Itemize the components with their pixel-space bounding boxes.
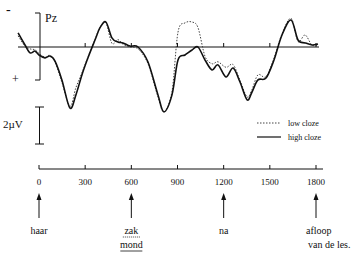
event-word: haar — [30, 225, 48, 236]
baseline-ticks — [85, 43, 316, 47]
x-tick-label: 900 — [171, 177, 185, 187]
legend-label-high-cloze: high cloze — [288, 133, 322, 142]
data-point-low-cloze — [305, 34, 306, 35]
arrowhead-icon — [221, 193, 226, 200]
event-marker: afloopvan de les. — [306, 193, 351, 250]
event-markers: haarzakmondnaafloopvan de les. — [30, 193, 350, 251]
event-word: afloop — [306, 225, 332, 236]
positive-polarity-label: + — [12, 72, 19, 86]
x-tick-label: 1200 — [215, 177, 234, 187]
event-word: mond — [120, 239, 143, 250]
event-word: na — [219, 225, 229, 236]
x-tick-label: 1800 — [307, 177, 326, 187]
erp-chart: - + Pz 2µV low cloze high cloze 03006009… — [0, 0, 360, 262]
arrowhead-icon — [37, 193, 42, 200]
arrowhead-icon — [314, 193, 319, 200]
event-word: van de les. — [308, 239, 351, 250]
arrowhead-icon — [129, 193, 134, 200]
x-tick-label: 0 — [37, 177, 42, 187]
data-points — [18, 18, 319, 113]
data-point-low-cloze — [197, 27, 198, 28]
event-marker: haar — [30, 193, 48, 236]
event-marker: na — [219, 193, 229, 236]
scale-bar — [35, 107, 44, 144]
data-point-low-cloze — [191, 21, 192, 22]
event-marker: zakmond — [120, 193, 143, 251]
x-ticks: 0300600900120015001800 — [37, 165, 326, 187]
data-point-low-cloze — [75, 87, 76, 88]
legend-label-low-cloze: low cloze — [288, 119, 319, 128]
electrode-label: Pz — [45, 11, 57, 25]
x-tick-label: 1500 — [261, 177, 280, 187]
data-point-low-cloze — [34, 49, 35, 50]
event-word: zak — [124, 225, 138, 236]
x-tick-label: 300 — [78, 177, 92, 187]
negative-polarity-label: - — [6, 2, 11, 17]
series-low-cloze — [18, 18, 318, 112]
series-high-cloze — [18, 20, 318, 112]
x-tick-label: 600 — [125, 177, 139, 187]
scale-bar-label: 2µV — [3, 118, 23, 130]
